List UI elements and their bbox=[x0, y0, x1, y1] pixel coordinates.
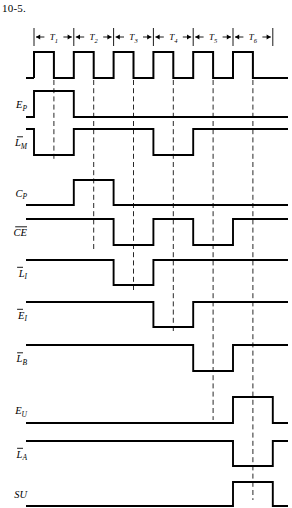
period-label-3: T3 bbox=[129, 32, 138, 43]
waveform-E_I_bar bbox=[26, 302, 288, 327]
period-label-6: T6 bbox=[249, 32, 258, 43]
waveform-L_A_bar bbox=[26, 441, 288, 466]
period-arrow-left bbox=[36, 34, 40, 39]
signal-label-CE_bar: CE bbox=[14, 227, 28, 238]
period-label-1: T1 bbox=[50, 32, 58, 43]
period-arrow-right bbox=[267, 34, 271, 39]
clock-waveform bbox=[34, 52, 288, 78]
signal-label-SU: SU bbox=[14, 489, 28, 500]
period-arrow-left bbox=[116, 34, 120, 39]
waveform-CE_bar bbox=[26, 219, 288, 245]
waveform-SU bbox=[26, 482, 288, 506]
period-label-5: T5 bbox=[209, 32, 218, 43]
waveform-C_P bbox=[26, 180, 288, 205]
waveform-L_B_bar bbox=[26, 345, 288, 371]
period-arrow-right bbox=[187, 34, 191, 39]
signal-label-E_P: EP bbox=[15, 99, 27, 113]
period-arrow-left bbox=[76, 34, 80, 39]
signal-label-L_M_bar: LM bbox=[14, 137, 28, 151]
period-arrow-left bbox=[155, 34, 159, 39]
timing-diagram-page: 10-5. T1T2T3T4T5T6EPLMCPCELIEILBEULASU bbox=[0, 0, 292, 508]
period-label-2: T2 bbox=[90, 32, 99, 43]
period-arrow-right bbox=[227, 34, 231, 39]
signal-label-L_B_bar: LB bbox=[16, 353, 28, 367]
waveform-L_M_bar bbox=[26, 129, 288, 155]
signal-label-E_U: EU bbox=[14, 405, 27, 419]
period-arrow-right bbox=[68, 34, 72, 39]
signal-label-C_P: CP bbox=[15, 188, 27, 202]
signal-label-L_A_bar: LA bbox=[16, 449, 28, 463]
timing-diagram-canvas: T1T2T3T4T5T6EPLMCPCELIEILBEULASU bbox=[0, 0, 292, 508]
waveform-E_U bbox=[26, 397, 288, 423]
period-arrow-right bbox=[147, 34, 151, 39]
period-label-4: T4 bbox=[169, 32, 178, 43]
signal-label-E_I_bar: EI bbox=[17, 310, 27, 324]
signal-label-L_I_bar: LI bbox=[18, 268, 28, 282]
waveform-L_I_bar bbox=[26, 260, 288, 285]
period-arrow-left bbox=[235, 34, 239, 39]
period-arrow-right bbox=[107, 34, 111, 39]
period-arrow-left bbox=[195, 34, 199, 39]
waveform-E_P bbox=[26, 91, 288, 117]
